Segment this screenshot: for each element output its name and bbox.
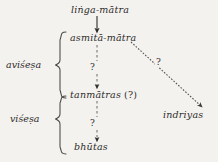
diagram-lines <box>0 0 218 162</box>
node-asmita-matra: asmitā-mātra <box>70 33 136 43</box>
edge-label-upper-question: ? <box>89 63 96 72</box>
node-indriyas: indriyas <box>163 110 203 120</box>
edge-label-lower-question: ? <box>89 119 96 128</box>
node-bhutas: bhūtas <box>74 142 108 152</box>
node-tanmatras-text: tanmātras <box>70 89 121 100</box>
node-linga-matra: liṅga-mātra <box>71 5 129 15</box>
diagram-canvas: liṅga-mātra asmitā-mātra tanmātras(?) bh… <box>0 0 218 162</box>
edge-label-diagonal-question: ? <box>155 58 162 67</box>
edge-asmita-to-indriyas <box>131 42 201 106</box>
group-label-visesa: viśeṣa <box>10 114 39 124</box>
node-tanmatras-question: (?) <box>124 89 137 100</box>
brace-avisesa <box>56 32 67 98</box>
brace-visesa <box>56 96 67 154</box>
group-label-avisesa: aviśeṣa <box>6 60 41 70</box>
node-tanmatras: tanmātras(?) <box>70 90 137 100</box>
